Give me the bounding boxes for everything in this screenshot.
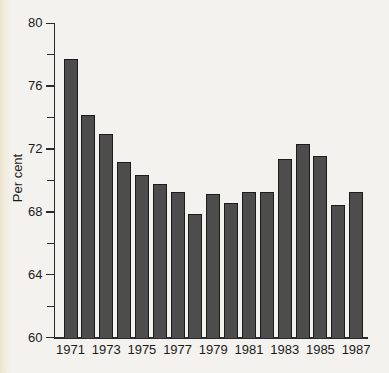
bar-1972 — [81, 115, 95, 338]
y-minor-tick-66 — [47, 243, 54, 244]
y-minor-tick-62 — [47, 306, 54, 307]
bar-1971 — [64, 59, 78, 339]
x-tick-label-1987: 1987 — [334, 343, 378, 357]
y-major-tick-72 — [46, 148, 54, 149]
bar-1974 — [117, 162, 131, 338]
bar-1987 — [349, 192, 363, 338]
y-major-tick-60 — [46, 337, 54, 338]
bar-1985 — [313, 156, 327, 338]
bar-1973 — [99, 134, 113, 338]
y-major-tick-64 — [46, 274, 54, 275]
y-axis-title: Per cent — [0, 168, 52, 188]
chart-page: Per cent 8076726864601971197319751977197… — [0, 0, 389, 373]
y-tick-label-76: 76 — [3, 79, 43, 93]
bar-1975 — [135, 175, 149, 338]
y-tick-label-72: 72 — [3, 142, 43, 156]
bar-chart: Per cent 8076726864601971197319751977197… — [0, 0, 389, 373]
y-tick-label-60: 60 — [3, 331, 43, 345]
y-tick-label-80: 80 — [3, 16, 43, 30]
y-major-tick-76 — [46, 85, 54, 86]
bar-1979 — [206, 194, 220, 339]
bar-1981 — [242, 192, 256, 338]
bar-1976 — [153, 184, 167, 338]
y-minor-tick-74 — [47, 117, 54, 118]
bar-1986 — [331, 205, 345, 339]
y-tick-label-68: 68 — [3, 205, 43, 219]
bar-1983 — [278, 159, 292, 338]
bar-1980 — [224, 203, 238, 338]
y-minor-tick-78 — [47, 54, 54, 55]
bar-1978 — [188, 214, 202, 338]
y-axis-line — [54, 23, 56, 339]
y-tick-label-64: 64 — [3, 268, 43, 282]
y-minor-tick-70 — [47, 180, 54, 181]
y-major-tick-80 — [46, 23, 54, 24]
bar-1977 — [171, 192, 185, 338]
bar-1982 — [260, 192, 274, 338]
bar-1984 — [296, 144, 310, 339]
y-major-tick-68 — [46, 211, 54, 212]
